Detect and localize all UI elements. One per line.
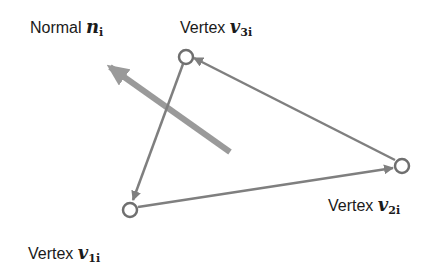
normal-label-text: Normal: [30, 19, 82, 36]
normal-arrow: [110, 67, 230, 152]
normal-label: Normal ni: [30, 16, 103, 37]
vertex1-subscript: 1i: [88, 252, 100, 265]
vertex3-label: Vertex v3i: [180, 16, 252, 37]
vertex-v3-marker: [179, 50, 193, 64]
vertex-v2-marker: [395, 159, 409, 173]
vertex3-label-text: Vertex: [180, 19, 225, 36]
vertex1-symbol: v: [78, 242, 88, 263]
vertex2-label-text: Vertex: [328, 197, 373, 214]
vertex1-label: Vertex v1i: [28, 242, 100, 263]
vertex2-label: Vertex v2i: [328, 194, 400, 215]
vertex2-symbol: v: [378, 194, 388, 215]
vertex-v1-marker: [123, 203, 137, 217]
triangle-diagram: [0, 0, 448, 277]
edge-v3-v1: [133, 64, 183, 200]
vertex3-symbol: v: [230, 16, 240, 37]
normal-symbol: n: [86, 16, 99, 37]
vertex3-subscript: 3i: [240, 26, 252, 39]
vertex1-label-text: Vertex: [28, 245, 73, 262]
normal-subscript: i: [99, 26, 103, 39]
vertex2-subscript: 2i: [388, 204, 400, 217]
